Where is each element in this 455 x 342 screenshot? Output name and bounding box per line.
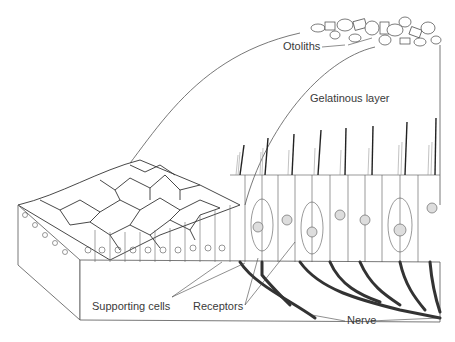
hair-cells xyxy=(230,175,440,262)
stereocilia xyxy=(240,118,436,175)
label-receptors: Receptors xyxy=(193,301,243,312)
macula-illustration xyxy=(0,0,455,342)
label-otoliths: Otoliths xyxy=(283,41,320,52)
label-gelatinous-layer: Gelatinous layer xyxy=(310,93,390,104)
otoliths-cluster xyxy=(311,17,441,46)
otoliths-leader xyxy=(322,45,345,47)
gelatinous-inner-curve xyxy=(245,47,375,205)
front-face xyxy=(80,260,440,322)
label-supporting-cells: Supporting cells xyxy=(92,301,170,312)
label-nerve: Nerve xyxy=(347,315,376,326)
